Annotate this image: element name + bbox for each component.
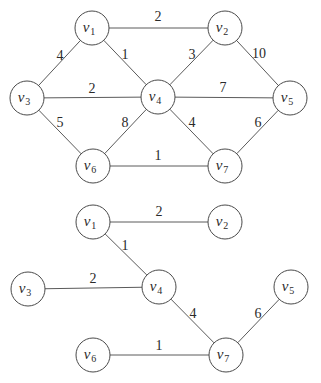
node-v3: v3	[11, 272, 45, 306]
node-subscript: 1	[90, 26, 95, 37]
node-subscript: 6	[91, 353, 96, 364]
node-v3: v3	[10, 81, 44, 115]
edge-weight-label: 1	[156, 338, 163, 353]
node-letter: v	[84, 346, 91, 362]
node-subscript: 4	[156, 95, 161, 106]
edge-weight-label: 5	[57, 115, 64, 130]
edge-weight-label: 4	[57, 48, 64, 63]
edge-weight-label: 2	[155, 9, 162, 24]
node-subscript: 3	[25, 96, 30, 107]
original-weighted-graph: 2413102758461 v1v2v3v4v5v6v7	[10, 9, 307, 183]
edge-v3-v4	[45, 287, 142, 288]
edge-weight-label: 1	[122, 238, 129, 253]
node-v2: v2	[208, 11, 242, 45]
graph-svg: 2413102758461 v1v2v3v4v5v6v7 212461 v1v2…	[0, 0, 321, 383]
node-v5: v5	[274, 270, 308, 304]
node-letter: v	[217, 346, 224, 362]
node-letter: v	[19, 280, 26, 296]
node-letter: v	[18, 89, 25, 105]
edge-weight-label: 7	[220, 80, 227, 95]
node-v5: v5	[273, 81, 307, 115]
edge-v3-v4	[44, 97, 141, 98]
edge-weight-label: 6	[255, 115, 262, 130]
node-subscript: 5	[289, 285, 294, 296]
node-subscript: 3	[26, 287, 31, 298]
node-letter: v	[282, 278, 289, 294]
node-subscript: 1	[91, 220, 96, 231]
edge-weight-label: 2	[156, 204, 163, 219]
node-letter: v	[83, 19, 90, 35]
edge-weight-label: 8	[122, 115, 129, 130]
node-subscript: 7	[224, 353, 229, 364]
node-subscript: 6	[91, 164, 96, 175]
edge-weight-label: 10	[252, 46, 266, 61]
node-v1: v1	[75, 11, 109, 45]
node-letter: v	[216, 157, 223, 173]
node-v1: v1	[76, 205, 110, 239]
node-letter: v	[150, 278, 157, 294]
edge-weight-label: 1	[122, 47, 129, 62]
edge-weight-label: 1	[155, 148, 162, 163]
node-v7: v7	[209, 338, 243, 372]
node-v2: v2	[208, 205, 242, 239]
edge-weight-label: 6	[255, 306, 262, 321]
graph-diagram: 2413102758461 v1v2v3v4v5v6v7 212461 v1v2…	[0, 0, 321, 383]
node-letter: v	[216, 19, 223, 35]
node-v6: v6	[76, 149, 110, 183]
node-letter: v	[84, 157, 91, 173]
node-v4: v4	[142, 270, 176, 304]
node-letter: v	[84, 213, 91, 229]
node-letter: v	[149, 88, 156, 104]
edge-weight-label: 2	[90, 271, 97, 286]
edge-weight-label: 3	[189, 47, 196, 62]
node-subscript: 2	[223, 220, 228, 231]
edge-weight-label: 4	[189, 115, 196, 130]
node-letter: v	[216, 213, 223, 229]
edge-weight-label: 2	[89, 81, 96, 96]
minimum-spanning-tree: 212461 v1v2v3v4v5v6v7	[11, 204, 308, 372]
edge-weight-label: 4	[190, 306, 197, 321]
node-subscript: 4	[157, 285, 162, 296]
node-subscript: 2	[223, 26, 228, 37]
node-v4: v4	[141, 80, 175, 114]
edge-v4-v5	[175, 97, 273, 98]
node-subscript: 5	[288, 96, 293, 107]
node-v6: v6	[76, 338, 110, 372]
node-v7: v7	[208, 149, 242, 183]
node-letter: v	[281, 89, 288, 105]
node-subscript: 7	[223, 164, 228, 175]
